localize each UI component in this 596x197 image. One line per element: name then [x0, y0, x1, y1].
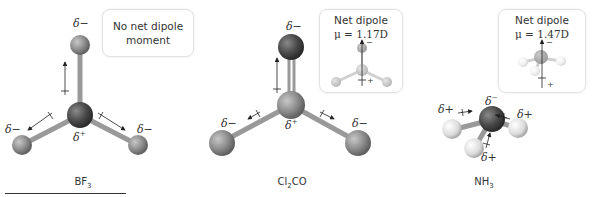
- formula-label-cl2co: Cl2CO: [262, 176, 322, 190]
- box-text-line1: No net dipole: [103, 19, 193, 33]
- partial-charge-label: δ+: [481, 151, 497, 164]
- inset-charge-sign: −: [366, 38, 373, 47]
- partial-charge-label: δ+: [517, 108, 533, 121]
- partial-charge-label: δ−: [5, 123, 21, 136]
- cl2co-dipole-box: Net dipole μ = 1.17D: [319, 9, 403, 93]
- inset-charge-sign: −: [546, 38, 553, 47]
- oxygen-atom: [278, 34, 304, 60]
- divider-rule: [5, 193, 126, 194]
- hydrogen-atom: [442, 119, 462, 139]
- box-text-line1: Net dipole: [499, 13, 585, 27]
- inset-charge-sign: +: [547, 80, 554, 89]
- dipole-value: μ = 1.47D: [499, 27, 585, 41]
- partial-charge-label: δ−: [286, 20, 302, 33]
- partial-charge-label: δ−: [73, 17, 89, 30]
- partial-charge-label: δ−: [137, 123, 153, 136]
- bf3-dipole-box: No net dipole moment: [102, 9, 194, 57]
- fluorine-atom: [128, 135, 148, 155]
- fluorine-atom: [70, 35, 90, 55]
- chlorine-atom: [345, 130, 371, 156]
- chlorine-atom: [209, 130, 235, 156]
- carbon-atom: [277, 91, 305, 119]
- formula-label-nh3: NH3: [454, 176, 514, 190]
- partial-charge-label: δ−: [352, 117, 368, 130]
- formula-label-bf3: BF3: [53, 176, 113, 190]
- partial-charge-label: δ+: [285, 118, 298, 132]
- hydrogen-atom: [508, 118, 528, 138]
- nitrogen-atom: [479, 106, 505, 132]
- boron-atom: [67, 102, 93, 128]
- fluorine-atom: [12, 135, 32, 155]
- dipole-value: μ = 1.17D: [320, 27, 402, 41]
- partial-charge-label: δ+: [73, 130, 86, 144]
- partial-charge-label: δ+: [438, 103, 454, 116]
- inset-charge-sign: +: [367, 76, 374, 85]
- partial-charge-label: δ−: [221, 117, 237, 130]
- nh3-dipole-box: Net dipole μ = 1.47D: [498, 9, 586, 93]
- partial-charge-label: δ−: [485, 94, 498, 108]
- box-text-line2: moment: [103, 33, 193, 47]
- box-text-line1: Net dipole: [320, 13, 402, 27]
